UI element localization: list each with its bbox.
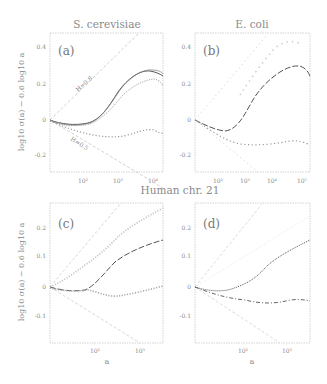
svg-text:10⁴: 10⁴ — [267, 177, 278, 184]
svg-text:10²: 10² — [238, 347, 249, 354]
x-axis-label-d: a — [250, 357, 255, 366]
svg-text:0.2: 0.2 — [181, 80, 191, 87]
panel-label-b: (b) — [203, 44, 220, 58]
svg-text:10⁵: 10⁵ — [297, 177, 308, 184]
svg-text:0: 0 — [42, 283, 46, 290]
svg-text:0: 0 — [42, 116, 46, 123]
title-human-chr21: Human chr. 21 — [141, 184, 220, 196]
svg-text:10³: 10³ — [282, 347, 293, 354]
svg-text:-0.1: -0.1 — [34, 312, 46, 319]
svg-text:10³: 10³ — [135, 347, 146, 354]
y-axis-label-top: log10 σ(a) − 0.6 log10 a — [17, 52, 26, 151]
svg-text:10³: 10³ — [240, 177, 251, 184]
panel-label-d: (d) — [203, 217, 220, 231]
title-e-coli: E. coli — [235, 18, 269, 30]
svg-text:0: 0 — [187, 116, 191, 123]
y-axis-label-bottom: log10 σ(a) − 0.6 log10 a — [17, 222, 26, 321]
panel-b: (b) 0.4 0.2 0 -0.2 10² 10³ 10⁴ 10⁵ — [179, 33, 310, 184]
svg-text:0.4: 0.4 — [36, 43, 46, 50]
panel-label-c: (c) — [58, 217, 74, 231]
svg-text:-0.2: -0.2 — [34, 151, 46, 158]
annotation-h05: H=0.5 — [69, 135, 90, 152]
svg-text:0.1: 0.1 — [36, 252, 46, 259]
svg-text:10²: 10² — [90, 347, 101, 354]
title-s-cerevisiae: S. cerevisiae — [73, 18, 140, 30]
svg-text:0: 0 — [187, 283, 191, 290]
svg-text:10²: 10² — [78, 177, 89, 184]
svg-text:-0.2: -0.2 — [179, 151, 191, 158]
svg-text:10³: 10³ — [113, 177, 124, 184]
svg-text:0.2: 0.2 — [36, 224, 46, 231]
svg-text:10²: 10² — [213, 177, 224, 184]
svg-text:-0.1: -0.1 — [179, 312, 191, 319]
svg-text:0.2: 0.2 — [36, 80, 46, 87]
figure: S. cerevisiae E. coli Human chr. 21 log1… — [0, 0, 327, 384]
svg-text:0.4: 0.4 — [181, 43, 191, 50]
panel-c: (c) 0.2 0.1 0 -0.1 10² 10³ — [34, 203, 163, 354]
panel-a: (a) 0.4 0.2 0 -0.2 10² 10³ 10⁴ H=0.8 H=0… — [34, 33, 163, 188]
svg-text:0.2: 0.2 — [181, 224, 191, 231]
panel-d: (d) 0.2 0.1 0 -0.1 10² 10³ — [179, 203, 310, 354]
annotation-h08: H=0.8 — [74, 74, 94, 93]
panel-label-a: (a) — [58, 44, 75, 58]
x-axis-label-c: a — [105, 357, 110, 366]
svg-text:0.1: 0.1 — [181, 252, 191, 259]
